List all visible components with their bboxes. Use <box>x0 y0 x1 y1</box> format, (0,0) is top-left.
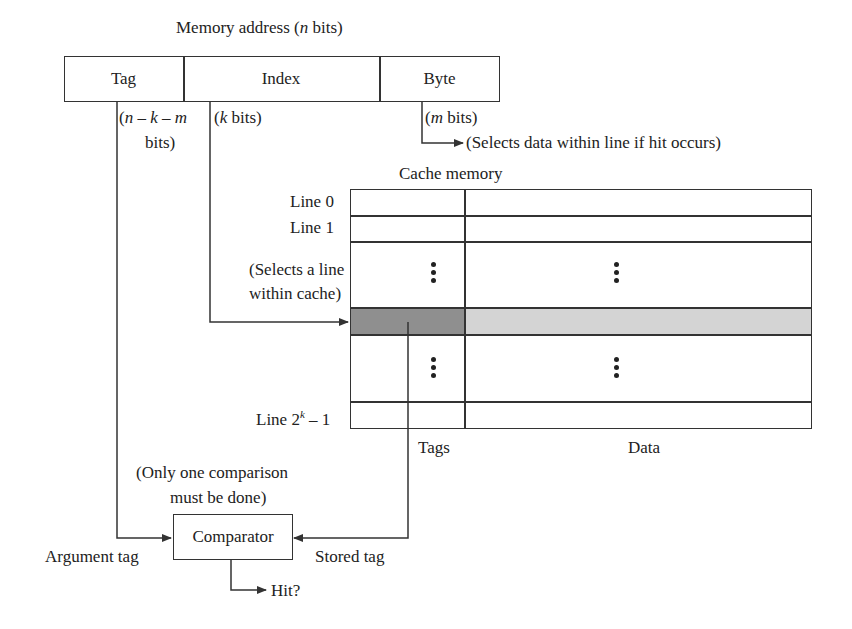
connector-arrows <box>0 0 852 629</box>
